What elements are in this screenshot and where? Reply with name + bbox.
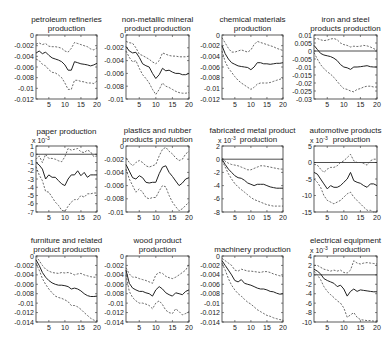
- y-tick-label: 0: [30, 32, 34, 39]
- panel-title: plastics and rubber: [124, 126, 192, 135]
- y-tick-label: -0.002: [104, 156, 124, 163]
- x-tick-label: 15: [169, 101, 177, 108]
- panel-plastics-and-rubber-products-production: plastics and rubberproducts production0-…: [104, 126, 193, 221]
- x-tick-label: 20: [373, 101, 381, 108]
- x-tick-label: 10: [152, 214, 160, 221]
- y-tick-label: -5: [306, 176, 312, 183]
- confidence-band-line: [314, 39, 377, 51]
- y-tick-label: -0.006: [104, 281, 124, 288]
- y-tick-label: -0.004: [200, 271, 220, 278]
- y-tick-label: 0: [216, 32, 220, 39]
- y-tick-label: 5: [308, 143, 312, 150]
- panel-title: product production: [33, 245, 99, 254]
- y-tick-label: -10: [302, 319, 312, 326]
- confidence-band-line: [36, 167, 97, 212]
- y-tick-label: -0.01: [108, 209, 124, 216]
- confidence-band-line: [314, 261, 377, 273]
- confidence-band-line: [314, 53, 377, 92]
- x-tick-label: 20: [185, 214, 193, 221]
- x-tick-label: 5: [325, 214, 329, 221]
- panel-title: production: [48, 24, 85, 33]
- y-tick-label: 0: [216, 156, 220, 163]
- x-tick-label: 5: [47, 324, 51, 331]
- confidence-band-line: [126, 275, 189, 315]
- exponent-label: x 10-3: [218, 135, 236, 144]
- y-tick-label: -0.008: [14, 290, 34, 297]
- panel-title: electrical equipment: [310, 236, 382, 245]
- confidence-band-line: [36, 43, 97, 53]
- y-tick-label: -0.002: [14, 42, 34, 49]
- x-tick-label: 15: [263, 214, 271, 221]
- x-tick-label: 10: [247, 101, 255, 108]
- panel-title: production: [333, 135, 370, 144]
- panel-wood-product-production: wood productproduction0-0.002-0.004-0.00…: [104, 236, 193, 331]
- y-tick-label: 0.005: [294, 40, 312, 47]
- x-tick-label: 20: [93, 214, 101, 221]
- x-tick-label: 15: [263, 101, 271, 108]
- y-tick-label: -0.004: [200, 53, 220, 60]
- y-tick-label: -0.014: [104, 319, 124, 326]
- y-tick-label: -0.01: [204, 300, 220, 307]
- y-tick-label: -0.005: [292, 56, 312, 63]
- y-tick-label: 2: [216, 143, 220, 150]
- y-tick-label: -0.008: [200, 74, 220, 81]
- panel-machinery-production: machinery production0-0.002-0.004-0.006-…: [200, 245, 291, 331]
- y-tick-label: -0.004: [104, 271, 124, 278]
- y-tick-label: -0.012: [104, 309, 124, 316]
- panel-non-metallic-mineral-product-production: non-metallic mineralproduct production0-…: [104, 15, 193, 108]
- y-tick-label: -0.01: [18, 85, 34, 92]
- x-tick-label: 10: [340, 101, 348, 108]
- y-tick-label: -4: [214, 182, 220, 189]
- y-tick-label: -0.012: [200, 309, 220, 316]
- y-tick-label: -0.01: [296, 64, 312, 71]
- y-tick-label: -15: [302, 209, 312, 216]
- panel-title: production: [240, 135, 277, 144]
- y-tick-label: -0.006: [200, 281, 220, 288]
- x-tick-label: 15: [263, 324, 271, 331]
- panel-chemical-materials-production: chemical materialsproduction0-0.002-0.00…: [200, 15, 287, 108]
- response-line: [36, 260, 97, 297]
- y-tick-label: -0.03: [296, 96, 312, 103]
- y-tick-label: -0.004: [14, 53, 34, 60]
- response-line: [314, 45, 377, 69]
- x-tick-label: 5: [47, 214, 51, 221]
- response-line: [36, 163, 97, 186]
- confidence-band-line: [314, 154, 377, 172]
- panel-electrical-equipment-production: electrical equipmentproductionx 10-3420-…: [302, 236, 382, 331]
- x-tick-label: 5: [233, 324, 237, 331]
- y-tick-label: -2: [306, 281, 312, 288]
- x-tick-label: 15: [77, 214, 85, 221]
- response-line: [314, 172, 377, 189]
- y-tick-label: -0.01: [108, 300, 124, 307]
- x-tick-label: 15: [357, 214, 365, 221]
- panel-title: production: [234, 24, 271, 33]
- y-tick-label: 0: [308, 159, 312, 166]
- response-line: [222, 46, 283, 70]
- x-tick-label: 15: [77, 324, 85, 331]
- y-tick-label: -0.004: [104, 169, 124, 176]
- x-tick-label: 5: [233, 101, 237, 108]
- x-tick-label: 20: [279, 324, 287, 331]
- panel-title: wood product: [132, 236, 182, 245]
- x-tick-label: 20: [279, 214, 287, 221]
- plot-area: [222, 146, 283, 212]
- panel-title: iron and steel: [321, 15, 369, 24]
- y-tick-label: -0.015: [292, 72, 312, 79]
- y-tick-label: -0.014: [14, 319, 34, 326]
- panel-title: non-metallic mineral: [122, 15, 194, 24]
- y-tick-label: -2: [28, 167, 34, 174]
- y-tick-label: -8: [306, 309, 312, 316]
- plot-area: [222, 35, 283, 99]
- x-tick-label: 5: [233, 214, 237, 221]
- x-tick-label: 20: [93, 324, 101, 331]
- confidence-band-line: [126, 265, 189, 284]
- panel-title: fabricated metal product: [210, 126, 297, 135]
- y-tick-label: -0.01: [204, 85, 220, 92]
- y-tick-label: 0: [120, 32, 124, 39]
- y-tick-label: -0.002: [200, 262, 220, 269]
- panel-title: production: [333, 245, 370, 254]
- x-tick-label: 20: [93, 101, 101, 108]
- confidence-band-line: [126, 169, 189, 211]
- x-tick-label: 5: [137, 101, 141, 108]
- panel-title: products production: [122, 135, 192, 144]
